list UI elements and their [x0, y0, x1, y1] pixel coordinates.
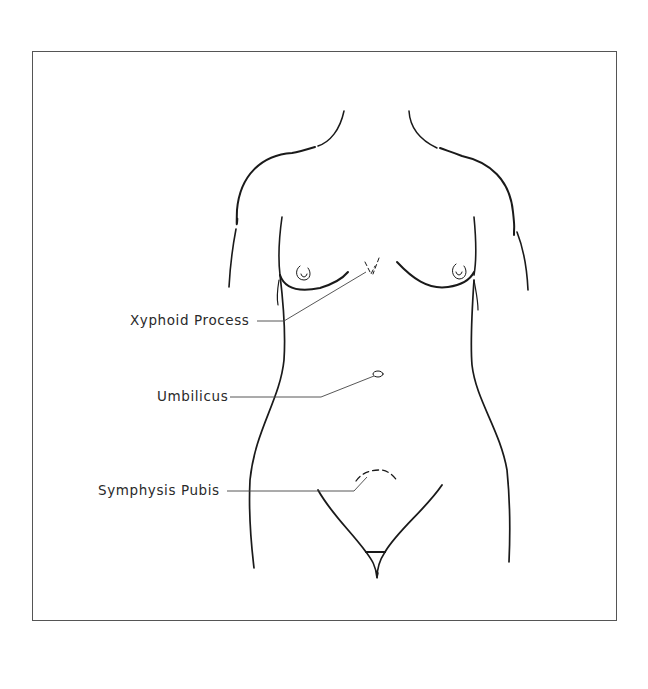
xyphoid-process-marker [365, 258, 379, 274]
arm-right-inner [474, 280, 478, 310]
groin-right-outline [385, 485, 442, 552]
groin-left-outline [318, 490, 366, 552]
nipple-right-inner [456, 272, 462, 275]
umbilicus-leader-line [230, 376, 374, 397]
torso-left-outline [249, 275, 284, 568]
chest-left-outline [279, 217, 282, 275]
torso-right-outline [471, 280, 510, 562]
groin-lower [366, 552, 385, 578]
arm-left-outline [229, 229, 236, 287]
symphysis-leader-line [227, 477, 367, 491]
umbilicus-marker [373, 371, 383, 377]
label-umbilicus: Umbilicus [157, 390, 228, 404]
label-xyphoid-process: Xyphoid Process [130, 314, 249, 328]
symphysis-pubis-marker [356, 470, 398, 482]
label-symphysis-pubis: Symphysis Pubis [98, 484, 220, 498]
neck-left-outline [318, 111, 344, 146]
chest-right-outline [474, 217, 476, 275]
shoulder-left-outline [237, 147, 315, 224]
nipple-left [297, 266, 311, 280]
breast-left-outline [280, 272, 348, 290]
arm-left-inner [277, 280, 279, 305]
shoulder-right-outline [440, 148, 514, 235]
nipple-right [452, 264, 466, 279]
arm-right-outline [517, 232, 528, 290]
nipple-left-inner [301, 274, 307, 277]
torso-illustration [0, 0, 648, 689]
breast-right-outline [397, 262, 474, 287]
neck-right-outline [409, 111, 437, 148]
xyphoid-leader-line [257, 272, 366, 321]
